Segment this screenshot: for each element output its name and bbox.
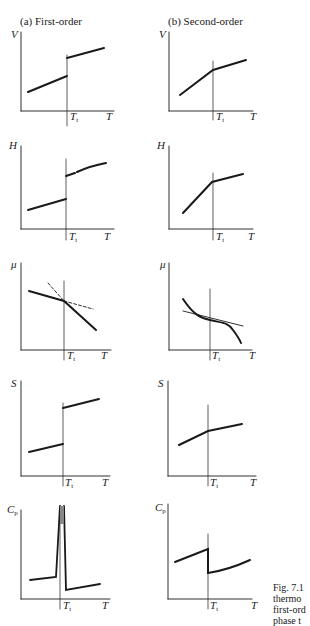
svg-text:T: T (102, 476, 109, 488)
panel-b-H (169, 146, 253, 240)
svg-text:T: T (248, 230, 255, 242)
svg-text:μ: μ (159, 258, 166, 270)
panel-a-S (21, 381, 110, 486)
svg-text:T: T (249, 349, 256, 361)
svg-text:Tt: Tt (67, 349, 75, 363)
svg-text:Cp: Cp (155, 501, 166, 515)
svg-text:T: T (250, 476, 257, 488)
panel-b-Cp (168, 504, 252, 609)
svg-text:H: H (8, 139, 18, 151)
panel-a-H (21, 146, 114, 240)
svg-text:S: S (11, 377, 17, 389)
svg-text:T: T (250, 110, 257, 122)
panel-b-mu (169, 263, 252, 360)
svg-text:Cp: Cp (7, 503, 18, 517)
svg-text:V: V (159, 28, 167, 40)
svg-text:Tt: Tt (216, 110, 224, 124)
svg-text:T: T (106, 110, 113, 122)
caption-line: first-ord (273, 604, 306, 615)
svg-text:T: T (251, 599, 258, 611)
figure-caption: Fig. 7.1thermofirst-ordphase t (273, 582, 306, 626)
svg-text:T: T (101, 349, 108, 361)
panel-a-mu (21, 263, 111, 360)
svg-text:Tt: Tt (69, 230, 77, 244)
caption-line: thermo (273, 593, 306, 604)
svg-text:T: T (104, 230, 111, 242)
svg-text:V: V (11, 28, 19, 40)
caption-line: Fig. 7.1 (273, 582, 306, 593)
svg-text:S: S (158, 377, 164, 389)
panel-a-V (21, 32, 114, 126)
caption-line: phase t (273, 615, 306, 626)
svg-text:Tt: Tt (70, 110, 78, 124)
panel-b-V (169, 32, 253, 120)
svg-text:T: T (102, 599, 109, 611)
panel-a-Cp (21, 506, 110, 609)
svg-text:Tt: Tt (210, 476, 218, 490)
svg-text:Tt: Tt (216, 230, 224, 244)
svg-text:μ: μ (10, 258, 17, 270)
svg-text:Tt: Tt (63, 599, 71, 613)
svg-text:Tt: Tt (212, 349, 220, 363)
svg-text:H: H (156, 139, 166, 151)
svg-text:Tt: Tt (65, 476, 73, 490)
svg-text:Tt: Tt (210, 599, 218, 613)
panel-b-S (168, 381, 256, 486)
